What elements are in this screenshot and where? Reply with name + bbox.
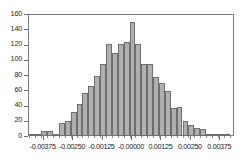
x-axis-minor-tick <box>59 136 60 138</box>
x-axis-minor-tick <box>82 136 83 138</box>
x-axis-minor-tick <box>212 136 213 138</box>
x-axis-minor-tick <box>94 136 95 138</box>
x-axis-minor-tick <box>118 136 119 138</box>
x-axis-minor-tick <box>200 136 201 138</box>
x-axis-minor-tick <box>153 136 154 138</box>
x-axis-tick <box>43 136 44 140</box>
x-axis-minor-tick <box>100 136 101 138</box>
x-axis-minor-tick <box>135 136 136 138</box>
x-axis-minor-tick <box>188 136 189 138</box>
x-axis-tick-label: -0.00250 <box>59 142 85 151</box>
x-axis-minor-tick <box>29 136 30 138</box>
x-axis-minor-tick <box>206 136 207 138</box>
x-axis-minor-tick <box>112 136 113 138</box>
x-axis-minor-tick <box>183 136 184 138</box>
x-axis-tick-label: -0.00000 <box>118 142 144 151</box>
x-axis-minor-tick <box>177 136 178 138</box>
histogram-figure: 020406080100120140160 -0.00375-0.00250-0… <box>0 0 243 160</box>
x-axis-minor-tick <box>230 136 231 138</box>
x-axis-minor-tick <box>141 136 142 138</box>
x-axis-minor-tick <box>53 136 54 138</box>
x-axis-minor-tick <box>224 136 225 138</box>
x-axis-minor-tick <box>77 136 78 138</box>
x-axis-tick-label: -0.00125 <box>89 142 115 151</box>
x-axis-minor-tick <box>165 136 166 138</box>
x-axis-tick-label: 0.00125 <box>148 142 172 151</box>
x-axis-minor-tick <box>41 136 42 138</box>
x-axis-tick <box>160 136 161 140</box>
x-axis: -0.00375-0.00250-0.00125-0.000000.001250… <box>0 0 243 160</box>
x-axis-minor-tick <box>147 136 148 138</box>
x-axis-minor-tick <box>35 136 36 138</box>
x-axis-tick-label: 0.00375 <box>207 142 231 151</box>
x-axis-minor-tick <box>65 136 66 138</box>
x-axis-minor-tick <box>124 136 125 138</box>
x-axis-tick-label: 0.00250 <box>178 142 202 151</box>
x-axis-tick <box>219 136 220 140</box>
x-axis-minor-tick <box>171 136 172 138</box>
x-axis-minor-tick <box>106 136 107 138</box>
x-axis-tick <box>190 136 191 140</box>
x-axis-tick <box>72 136 73 140</box>
x-axis-minor-tick <box>194 136 195 138</box>
x-axis-tick-label: -0.00375 <box>30 142 56 151</box>
x-axis-tick <box>131 136 132 140</box>
x-axis-minor-tick <box>47 136 48 138</box>
x-axis-minor-tick <box>88 136 89 138</box>
x-axis-tick <box>102 136 103 140</box>
